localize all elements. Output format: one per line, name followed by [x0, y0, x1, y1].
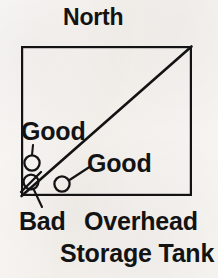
leader-line-good-1 [32, 145, 33, 155]
figure-canvas: North Good Good Bad Overhead Storage Tan… [0, 0, 218, 278]
marker-good-well-1[interactable] [24, 155, 39, 170]
marker-good-well-2[interactable] [54, 176, 69, 191]
caption-storage-tank: Storage Tank [60, 241, 214, 266]
label-good-well-2: Good [87, 151, 151, 176]
leader-line-bad [34, 190, 42, 207]
page-title-north: North [63, 6, 123, 29]
label-good-well-1: Good [21, 119, 85, 144]
label-bad-well: Bad [19, 209, 66, 234]
caption-overhead: Overhead [84, 209, 198, 234]
